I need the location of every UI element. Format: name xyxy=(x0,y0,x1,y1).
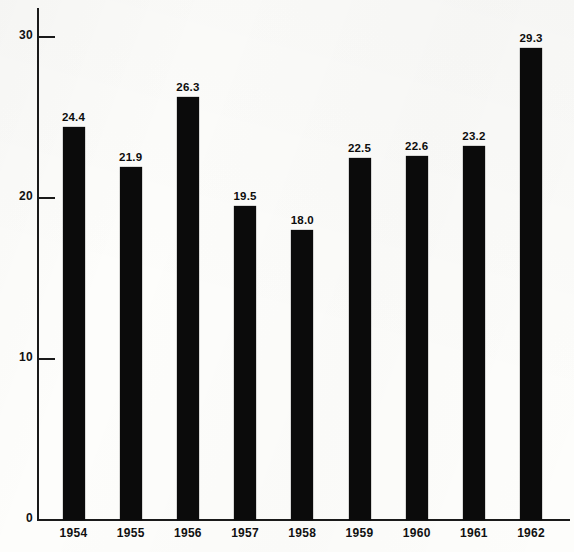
bar-value-label: 23.2 xyxy=(462,130,485,142)
x-axis-label-1955: 1955 xyxy=(106,526,156,540)
bar-1961 xyxy=(463,146,485,520)
bar-group: 24.4 xyxy=(63,127,85,520)
bar-chart: 0102030 24.4195421.9195526.3195619.51957… xyxy=(0,0,574,552)
bar-value-label: 22.5 xyxy=(348,142,371,154)
bar-1955 xyxy=(120,167,142,520)
bar-group: 19.5 xyxy=(234,206,256,520)
bar-1956 xyxy=(177,97,199,520)
x-axis-label-1959: 1959 xyxy=(335,526,385,540)
bar-value-label: 21.9 xyxy=(119,151,142,163)
bar-value-label: 29.3 xyxy=(520,32,543,44)
bar-group: 22.5 xyxy=(349,158,371,520)
bar-value-label: 26.3 xyxy=(176,81,199,93)
x-axis-label-1957: 1957 xyxy=(220,526,270,540)
bar-1959 xyxy=(349,158,371,520)
bar-value-label: 19.5 xyxy=(234,190,257,202)
bar-series: 24.4195421.9195526.3195619.5195718.01958… xyxy=(0,0,574,552)
bar-1958 xyxy=(291,230,313,520)
x-axis-label-1956: 1956 xyxy=(163,526,213,540)
x-axis-label-1961: 1961 xyxy=(449,526,499,540)
bar-1957 xyxy=(234,206,256,520)
bar-group: 22.6 xyxy=(406,156,428,520)
x-axis-label-1958: 1958 xyxy=(277,526,327,540)
x-axis-label-1962: 1962 xyxy=(506,526,556,540)
bar-1962 xyxy=(520,48,542,520)
bar-1954 xyxy=(63,127,85,520)
bar-value-label: 24.4 xyxy=(62,111,85,123)
x-axis-label-1954: 1954 xyxy=(49,526,99,540)
bar-value-label: 18.0 xyxy=(291,214,314,226)
bar-1960 xyxy=(406,156,428,520)
bar-group: 29.3 xyxy=(520,48,542,520)
bar-value-label: 22.6 xyxy=(405,140,428,152)
bar-group: 23.2 xyxy=(463,146,485,520)
bar-group: 26.3 xyxy=(177,97,199,520)
x-axis-label-1960: 1960 xyxy=(392,526,442,540)
bar-group: 18.0 xyxy=(291,230,313,520)
bar-group: 21.9 xyxy=(120,167,142,520)
